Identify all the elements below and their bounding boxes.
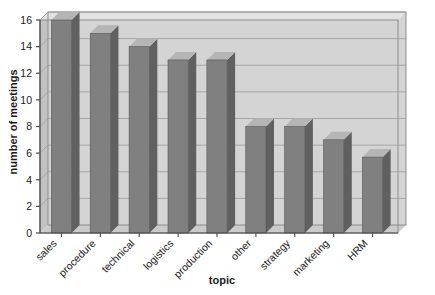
- bar: [129, 39, 157, 233]
- bar: [90, 25, 118, 233]
- bar-front-face: [90, 33, 110, 233]
- bar-side-face: [266, 119, 274, 234]
- y-tick-label: 8: [26, 120, 32, 132]
- y-axis-title: number of meetings: [7, 69, 19, 174]
- bar-front-face: [168, 60, 188, 233]
- bar-front-face: [246, 127, 266, 234]
- bar-side-face: [188, 52, 196, 233]
- bar-front-face: [207, 60, 227, 233]
- y-tick-label: 2: [26, 200, 32, 212]
- bar-side-face: [305, 119, 313, 234]
- y-tick-label: 14: [20, 40, 32, 52]
- bar-front-face: [362, 157, 382, 233]
- bar: [324, 132, 352, 233]
- plot-top-edge: [40, 12, 406, 20]
- bar: [362, 149, 390, 233]
- chart-svg: 0246810121416 salesproceduretechnicallog…: [0, 0, 435, 295]
- bar: [51, 12, 79, 233]
- y-tick-label: 0: [26, 227, 32, 239]
- x-axis-title: topic: [209, 274, 235, 286]
- bar-side-face: [110, 25, 118, 233]
- y-tick-label: 4: [26, 174, 32, 186]
- y-tick-label: 10: [20, 94, 32, 106]
- bar-chart: 0246810121416 salesproceduretechnicallog…: [0, 0, 435, 295]
- bar-side-face: [383, 149, 391, 233]
- bar: [207, 52, 235, 233]
- y-tick-label: 16: [20, 14, 32, 26]
- bar-front-face: [324, 140, 344, 233]
- bar-side-face: [344, 132, 352, 233]
- bar-side-face: [72, 12, 80, 233]
- bar-front-face: [285, 127, 305, 234]
- bar: [285, 119, 313, 234]
- bar-front-face: [129, 47, 149, 233]
- bar-front-face: [51, 20, 71, 233]
- bar-side-face: [149, 39, 157, 233]
- bar-side-face: [227, 52, 235, 233]
- y-tick-label: 6: [26, 147, 32, 159]
- y-tick-label: 12: [20, 67, 32, 79]
- bar: [246, 119, 274, 234]
- bar: [168, 52, 196, 233]
